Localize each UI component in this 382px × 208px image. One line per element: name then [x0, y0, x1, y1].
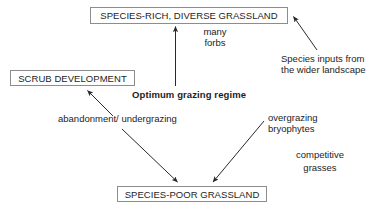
node-scrub-development[interactable]: SCRUB DEVELOPMENT — [10, 70, 135, 86]
node-species-poor-label: SPECIES-POOR GRASSLAND — [125, 189, 260, 200]
label-species-inputs: Species inputs from the wider landscape — [281, 53, 366, 75]
node-species-rich-grassland[interactable]: SPECIES-RICH, DIVERSE GRASSLAND — [90, 7, 288, 24]
arrow-layer — [0, 0, 382, 208]
node-species-poor-grassland[interactable]: SPECIES-POOR GRASSLAND — [117, 186, 267, 202]
label-abandonment-text: abandonment/ undergrazing — [58, 113, 177, 124]
arrow-abandonment-to-species-poor — [122, 129, 178, 182]
label-forbs: forbs — [192, 37, 238, 48]
label-optimum-grazing-regime: Optimum grazing regime — [132, 89, 246, 100]
arrow-overgrazing-to-species-poor — [213, 121, 264, 182]
label-species-inputs-line1: Species inputs from — [281, 53, 366, 64]
label-optimum-grazing-text: Optimum grazing regime — [132, 89, 246, 100]
label-many-forbs: many forbs — [192, 26, 238, 48]
arrow-species-inputs-to-species-rich — [294, 17, 318, 51]
label-many: many — [192, 26, 238, 37]
node-scrub-label: SCRUB DEVELOPMENT — [18, 73, 127, 84]
label-competitive-grasses: competitive grasses — [287, 149, 353, 173]
label-bryophytes: bryophytes — [268, 123, 318, 134]
label-overgrazing-bryophytes: overgrazing bryophytes — [268, 112, 318, 134]
label-overgrazing: overgrazing — [268, 112, 318, 123]
node-species-rich-label: SPECIES-RICH, DIVERSE GRASSLAND — [100, 10, 277, 21]
grassland-flow-diagram: SPECIES-RICH, DIVERSE GRASSLAND SCRUB DE… — [0, 0, 382, 208]
label-species-inputs-line2: the wider landscape — [281, 64, 366, 75]
label-competitive: competitive — [287, 149, 353, 160]
label-grasses: grasses — [287, 162, 353, 173]
label-abandonment-undergrazing: abandonment/ undergrazing — [58, 113, 177, 124]
